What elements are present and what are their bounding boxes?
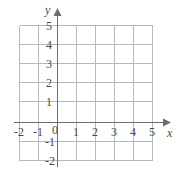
y-tick-label-3: 3 bbox=[38, 58, 52, 70]
y-axis-arrowhead bbox=[54, 8, 62, 16]
y-tick-label--1: -1 bbox=[38, 136, 55, 148]
coordinate-grid-figure: y x 0 -2 -1 1 2 3 4 5 5 4 3 2 1 -1 -2 bbox=[0, 0, 181, 181]
x-tick-label-1: 1 bbox=[68, 126, 84, 138]
x-tick-label--2: -2 bbox=[11, 126, 27, 138]
y-tick-label-5: 5 bbox=[38, 20, 52, 32]
y-axis-label: y bbox=[45, 4, 50, 16]
x-axis-label: x bbox=[167, 127, 172, 139]
coordinate-plane-svg bbox=[0, 0, 181, 181]
y-tick-label--2: -2 bbox=[38, 155, 55, 167]
y-tick-label-4: 4 bbox=[38, 39, 52, 51]
y-tick-label-1: 1 bbox=[38, 96, 52, 108]
x-tick-label-2: 2 bbox=[87, 126, 103, 138]
x-tick-label-4: 4 bbox=[125, 126, 141, 138]
y-tick-label-2: 2 bbox=[38, 77, 52, 89]
x-tick-label-3: 3 bbox=[106, 126, 122, 138]
x-tick-label-5: 5 bbox=[144, 126, 160, 138]
